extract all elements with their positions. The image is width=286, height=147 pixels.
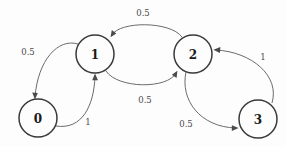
edge-0-to-1 [56,74,98,127]
node-2-label: 2 [189,48,197,62]
edge-1-to-2 [106,71,177,85]
node-3-label: 3 [254,113,262,127]
state-diagram: 1 0.5 0.5 0.5 0.5 1 0 1 2 3 [0,0,286,147]
edge-3-to-2-arrowhead [213,47,220,53]
node-0-label: 0 [34,112,42,126]
edge-label-2-to-3: 0.5 [179,119,193,129]
edge-2-to-3-arrowhead [232,125,239,131]
edge-1-to-0-path [35,43,78,97]
edge-2-to-1 [111,25,183,37]
edge-label-0-to-1: 1 [85,117,90,127]
node-1[interactable]: 1 [76,35,114,73]
diagram-canvas: 1 0.5 0.5 0.5 0.5 1 0 1 2 3 [0,0,286,147]
edge-label-2-to-1: 0.5 [136,8,150,18]
edge-2-to-1-path [112,25,182,37]
edge-1-to-0 [32,43,78,99]
edge-1-to-2-path [106,71,176,85]
node-0[interactable]: 0 [19,99,57,137]
node-2[interactable]: 2 [174,35,212,73]
edge-label-1-to-0: 0.5 [21,47,35,57]
node-1-label: 1 [91,48,99,62]
edge-label-1-to-2: 0.5 [138,95,152,105]
node-3[interactable]: 3 [239,100,277,138]
edge-2-to-3 [185,72,239,131]
edge-0-to-1-arrowhead [92,74,98,81]
edge-label-3-to-2: 1 [260,52,265,62]
